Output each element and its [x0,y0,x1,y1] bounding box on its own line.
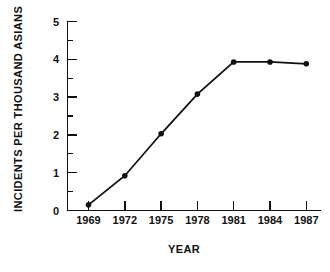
y-tick-label-5: 5 [53,16,59,28]
x-tick-label-1987: 1987 [294,214,318,226]
line-chart: INCIDENTS PER THOUSAND ASIANS 5 4 3 2 [0,0,330,272]
series-line [89,62,307,205]
x-tick-label-1972: 1972 [113,214,137,226]
data-point [231,59,237,65]
y-minor-ticks [68,40,74,191]
y-tick-label-2: 2 [53,129,59,141]
y-tick-label-3: 3 [53,91,59,103]
data-point [195,91,201,97]
y-tick-label-4: 4 [53,53,60,65]
data-point [158,131,164,137]
x-tick-label-1981: 1981 [221,214,245,226]
data-point [122,173,128,179]
data-point [304,61,310,67]
x-tick-label-1969: 1969 [76,214,100,226]
x-tick-label-1975: 1975 [149,214,173,226]
x-tick-label-1984: 1984 [258,214,283,226]
y-axis-label: INCIDENTS PER THOUSAND ASIANS [12,6,24,212]
chart-figure: INCIDENTS PER THOUSAND ASIANS 5 4 3 2 [0,0,330,272]
data-point [86,202,92,208]
x-tick-labels: 1969 1972 1975 1978 1981 1984 1987 [76,214,318,226]
series-markers [86,59,309,207]
x-tick-label-1978: 1978 [185,214,209,226]
y-tick-label-0: 0 [53,205,59,217]
x-major-ticks [89,201,307,211]
y-tick-label-1: 1 [53,167,59,179]
x-axis-label: YEAR [168,243,200,255]
y-tick-labels: 5 4 3 2 1 0 [53,16,60,217]
data-point [267,59,273,65]
